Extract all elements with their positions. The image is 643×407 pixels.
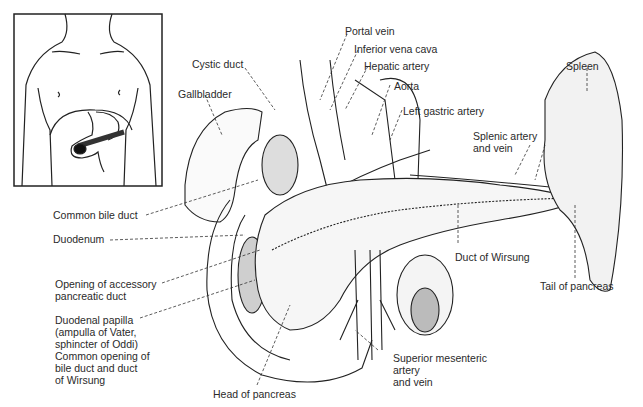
label-hepatic-artery: Hepatic artery bbox=[364, 60, 429, 72]
label-spleen: Spleen bbox=[566, 60, 599, 72]
body-inset bbox=[14, 14, 162, 186]
label-splenic-artery-vein: Splenic arteryand vein bbox=[473, 130, 537, 154]
gallbladder-shape bbox=[185, 109, 262, 223]
label-accessory-duct: Opening of accessorypancreatic duct bbox=[55, 278, 157, 302]
label-head-of-pancreas: Head of pancreas bbox=[213, 388, 296, 400]
label-tail-of-pancreas: Tail of pancreas bbox=[540, 280, 614, 292]
label-duodenum: Duodenum bbox=[53, 233, 104, 245]
label-common-bile-duct: Common bile duct bbox=[53, 209, 138, 221]
label-gallbladder: Gallbladder bbox=[178, 88, 232, 100]
label-cystic-duct: Cystic duct bbox=[192, 58, 243, 70]
label-duct-of-wirsung: Duct of Wirsung bbox=[455, 251, 530, 263]
label-superior-mesenteric: Superior mesentericarteryand vein bbox=[393, 352, 487, 388]
label-duodenal-papilla: Duodenal papilla(ampulla of Vater,sphinc… bbox=[55, 314, 150, 386]
label-portal-vein: Portal vein bbox=[345, 25, 395, 37]
label-left-gastric-artery: Left gastric artery bbox=[403, 105, 484, 117]
label-aorta: Aorta bbox=[394, 80, 419, 92]
spleen-shape bbox=[544, 52, 623, 291]
label-inferior-vena-cava: Inferior vena cava bbox=[354, 43, 437, 55]
organs bbox=[185, 52, 623, 382]
